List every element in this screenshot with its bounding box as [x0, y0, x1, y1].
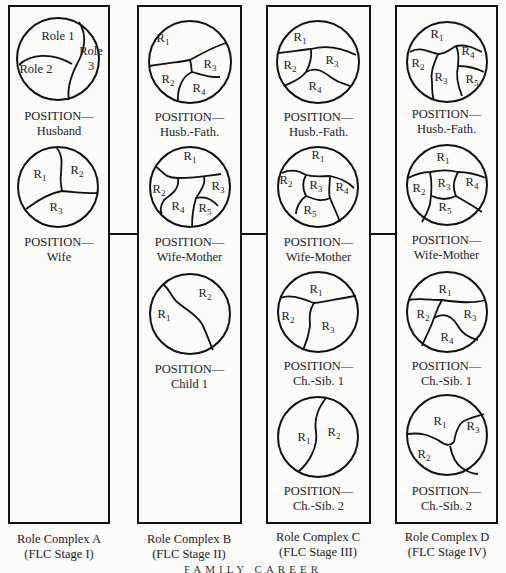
- role-label: R1: [294, 30, 307, 46]
- position-label-a-wife: POSITION— Wife: [9, 235, 109, 265]
- role-label: R3: [204, 57, 217, 73]
- position-label-line1: POSITION—: [396, 107, 497, 122]
- role-label: Role 2: [20, 62, 53, 76]
- role-label: R2: [282, 309, 295, 325]
- role-label: R2: [71, 163, 84, 179]
- position-label-b-child1: POSITION— Child 1: [138, 362, 241, 392]
- position-label-c-ch-sib2: POSITION— Ch.-Sib. 2: [267, 484, 370, 514]
- role-label: R5: [439, 200, 452, 216]
- role-label: R1: [184, 149, 197, 165]
- figure-footer-title: FAMILY CAREER: [0, 563, 506, 573]
- role-label: R1: [158, 307, 171, 323]
- position-label-line1: POSITION—: [267, 235, 370, 250]
- caption-line2: (FLC Stage IV): [388, 545, 506, 560]
- position-label-line2: Husb.-Fath.: [138, 125, 241, 140]
- position-label-line1: POSITION—: [138, 110, 241, 125]
- caption-line1: Role Complex D: [388, 530, 506, 545]
- role-label: R2: [280, 173, 293, 189]
- position-label-line1: POSITION—: [138, 235, 241, 250]
- role-label: R2: [417, 307, 430, 323]
- position-label-line2: Ch.-Sib. 1: [396, 374, 497, 389]
- role-label: R3: [212, 179, 225, 195]
- position-label-line2: Wife: [9, 250, 109, 265]
- role-label: R2: [413, 181, 426, 197]
- role-label: R4: [462, 44, 475, 60]
- position-label-b-husb-fath: POSITION— Husb.-Fath.: [138, 110, 241, 140]
- position-label-a-husband: POSITION— Husband: [9, 109, 109, 139]
- role-label: R3: [322, 319, 335, 335]
- position-label-line2: Husb.-Fath.: [396, 122, 497, 137]
- position-label-line2: Child 1: [138, 377, 241, 392]
- role-label: R3: [435, 70, 448, 86]
- role-label: R2: [328, 425, 341, 441]
- position-label-line1: POSITION—: [9, 235, 109, 250]
- position-label-d-ch-sib2: POSITION— Ch.-Sib. 2: [396, 484, 497, 514]
- position-label-line2: Ch.-Sib. 1: [267, 374, 370, 389]
- position-label-line1: POSITION—: [396, 484, 497, 499]
- position-label-line1: POSITION—: [138, 362, 241, 377]
- role-label: R3: [438, 176, 451, 192]
- caption-line2: (FLC Stage II): [130, 547, 248, 562]
- circle-c-ch-sib1: [278, 272, 358, 352]
- position-label-b-wife-mother: POSITION— Wife-Mother: [138, 235, 241, 265]
- circle-d-ch-sib2: [407, 395, 487, 475]
- position-label-line1: POSITION—: [396, 359, 497, 374]
- role-label: R1: [437, 150, 450, 166]
- role-label: R5: [199, 201, 212, 217]
- caption-complex-d: Role Complex D (FLC Stage IV): [388, 530, 506, 560]
- role-label: R4: [193, 81, 206, 97]
- caption-line2: (FLC Stage III): [259, 545, 377, 560]
- caption-complex-c: Role Complex C (FLC Stage III): [259, 530, 377, 560]
- caption-complex-b: Role Complex B (FLC Stage II): [130, 532, 248, 562]
- role-label: R4: [309, 79, 322, 95]
- position-label-d-wife-mother: POSITION— Wife-Mother: [396, 233, 497, 263]
- position-label-c-wife-mother: POSITION— Wife-Mother: [267, 235, 370, 265]
- position-label-c-husb-fath: POSITION— Husb.-Fath.: [267, 110, 370, 140]
- position-label-line1: POSITION—: [9, 109, 109, 124]
- role-label: R1: [310, 282, 323, 298]
- role-label: R2: [153, 182, 166, 198]
- caption-line1: Role Complex C: [259, 530, 377, 545]
- role-label: R4: [466, 175, 479, 191]
- position-label-line2: Wife-Mother: [138, 250, 241, 265]
- role-label: R1: [431, 27, 444, 43]
- role-label: R2: [284, 58, 297, 74]
- role-label: R3: [310, 178, 323, 194]
- circle-c-ch-sib2: [278, 397, 358, 477]
- caption-line2: (FLC Stage I): [0, 547, 118, 562]
- caption-line1: Role Complex B: [130, 532, 248, 547]
- position-label-d-ch-sib1: POSITION— Ch.-Sib. 1: [396, 359, 497, 389]
- position-label-line1: POSITION—: [396, 233, 497, 248]
- role-label: R1: [434, 414, 447, 430]
- role-label: R1: [157, 31, 170, 47]
- role-label: R3: [467, 419, 480, 435]
- role-label: R1: [439, 282, 452, 298]
- caption-line1: Role Complex A: [0, 532, 118, 547]
- role-complex-diagram: Role 1Role 2Role3R1R2R3R1R2R3R4R1R2R3R4R…: [0, 0, 506, 573]
- role-label: R1: [312, 148, 325, 164]
- caption-complex-a: Role Complex A (FLC Stage I): [0, 532, 118, 562]
- role-label: R4: [172, 199, 185, 215]
- position-label-line1: POSITION—: [267, 359, 370, 374]
- role-label: R2: [199, 286, 212, 302]
- role-label: R5: [304, 203, 317, 219]
- position-label-line1: POSITION—: [267, 484, 370, 499]
- role-label: R4: [441, 330, 454, 346]
- role-label: R2: [162, 72, 175, 88]
- role-label: R3: [50, 200, 63, 216]
- position-label-line1: POSITION—: [267, 110, 370, 125]
- position-label-line2: Ch.-Sib. 2: [267, 499, 370, 514]
- position-label-line2: Husband: [9, 124, 109, 139]
- role-label: Role 1: [42, 29, 75, 43]
- position-label-line2: Husb.-Fath.: [267, 125, 370, 140]
- role-label: R3: [326, 53, 339, 69]
- position-label-d-husb-fath: POSITION— Husb.-Fath.: [396, 107, 497, 137]
- role-label: R2: [412, 56, 425, 72]
- position-label-c-ch-sib1: POSITION— Ch.-Sib. 1: [267, 359, 370, 389]
- role-label: R1: [298, 430, 311, 446]
- position-label-line2: Ch.-Sib. 2: [396, 499, 497, 514]
- position-label-line2: Wife-Mother: [267, 250, 370, 265]
- role-label: R2: [418, 447, 431, 463]
- position-label-line2: Wife-Mother: [396, 248, 497, 263]
- role-label: R3: [464, 307, 477, 323]
